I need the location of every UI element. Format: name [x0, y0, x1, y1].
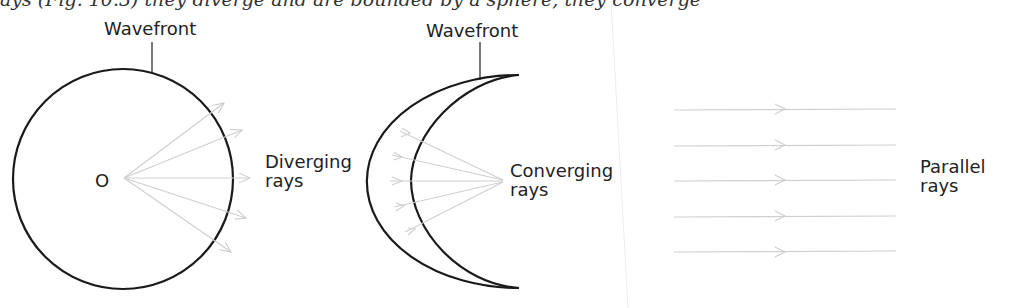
label-line: Converging: [510, 161, 613, 180]
label-line: Parallel: [920, 157, 986, 176]
converging-panel: [367, 42, 519, 288]
wavefront-label: Wavefront: [426, 21, 518, 40]
diverging-rays-label: Diverging rays: [265, 152, 352, 190]
converging-rays-label: Converging rays: [510, 161, 613, 199]
spherical-wavefront: [13, 69, 233, 289]
parallel-rays-label: Parallel rays: [920, 157, 986, 195]
label-line: rays: [510, 180, 613, 199]
label-line: rays: [920, 176, 986, 195]
parallel-panel: [674, 104, 896, 257]
wave-diagram: [0, 0, 1011, 308]
label-line: Diverging: [265, 152, 352, 171]
wavefront-label: Wavefront: [104, 19, 196, 38]
diverging-panel: [13, 42, 250, 289]
origin-label: O: [95, 171, 109, 190]
label-line: rays: [265, 171, 352, 190]
